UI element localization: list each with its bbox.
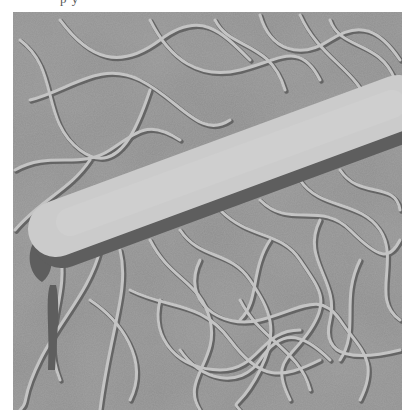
cropped-caption-text: p y: [60, 0, 79, 7]
micrograph-svg: [13, 12, 402, 410]
electron-micrograph: [13, 12, 402, 410]
